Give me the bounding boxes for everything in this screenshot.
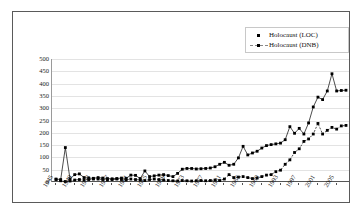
data-point-marker bbox=[265, 174, 268, 177]
data-point-marker bbox=[228, 164, 231, 167]
y-axis-tick-label: 100 bbox=[39, 154, 49, 161]
x-axis-tick bbox=[261, 183, 262, 185]
data-point-marker bbox=[331, 72, 334, 75]
data-point-marker bbox=[321, 98, 324, 101]
data-point-marker bbox=[317, 96, 320, 99]
data-point-marker bbox=[237, 156, 240, 159]
data-point-marker bbox=[307, 122, 310, 125]
data-series-layer bbox=[52, 59, 350, 182]
x-axis-tick bbox=[130, 183, 131, 185]
legend-label-loc: Holocaust (LOC) bbox=[269, 31, 318, 39]
x-axis-tick bbox=[336, 183, 337, 185]
data-point-marker bbox=[92, 178, 95, 181]
series-line-loc bbox=[56, 74, 346, 180]
data-point-marker bbox=[288, 125, 291, 128]
data-point-marker bbox=[181, 168, 184, 171]
data-point-marker bbox=[279, 142, 282, 145]
data-point-marker bbox=[298, 127, 301, 130]
data-point-marker bbox=[209, 167, 212, 170]
chart-figure: Holocaust (LOC) Holocaust (DNB) 05010015… bbox=[0, 0, 362, 215]
x-axis-tick bbox=[92, 183, 93, 185]
data-point-marker bbox=[172, 175, 175, 178]
legend-item-loc: Holocaust (LOC) bbox=[249, 30, 345, 40]
y-axis-tick-label: 300 bbox=[39, 105, 49, 112]
data-point-marker bbox=[340, 89, 343, 92]
data-point-marker bbox=[204, 179, 207, 182]
data-point-marker bbox=[307, 138, 310, 141]
y-axis-tick-label: 400 bbox=[39, 80, 49, 87]
y-axis-tick-label: 150 bbox=[39, 142, 49, 149]
y-axis-tick-label: 350 bbox=[39, 93, 49, 100]
data-point-marker bbox=[190, 167, 193, 170]
data-point-marker bbox=[204, 167, 207, 170]
data-point-marker bbox=[345, 89, 348, 92]
data-point-marker bbox=[284, 138, 287, 141]
data-point-marker bbox=[312, 133, 315, 136]
data-point-marker bbox=[129, 174, 132, 177]
data-point-marker bbox=[340, 125, 343, 128]
data-point-marker bbox=[134, 174, 137, 177]
x-axis-tick bbox=[186, 183, 187, 185]
x-axis-tick bbox=[298, 183, 299, 185]
x-axis-tick bbox=[242, 183, 243, 185]
x-axis-tick bbox=[74, 183, 75, 185]
data-point-marker bbox=[331, 126, 334, 129]
data-point-marker bbox=[148, 178, 151, 181]
data-point-marker bbox=[298, 147, 301, 150]
data-point-marker bbox=[335, 90, 338, 93]
x-axis-tick bbox=[205, 183, 206, 185]
legend-label-dnb: Holocaust (DNB) bbox=[269, 41, 319, 49]
x-axis-tick bbox=[167, 183, 168, 185]
data-point-marker bbox=[260, 147, 263, 150]
data-point-marker bbox=[251, 152, 254, 155]
data-point-marker bbox=[265, 144, 268, 147]
data-point-marker bbox=[312, 106, 315, 109]
legend-item-dnb: Holocaust (DNB) bbox=[249, 40, 345, 50]
y-axis-tick-label: 500 bbox=[39, 56, 49, 63]
data-point-marker bbox=[274, 142, 277, 145]
y-axis-tick-label: 200 bbox=[39, 130, 49, 137]
legend-marker-dnb-icon bbox=[249, 40, 269, 50]
data-point-marker bbox=[317, 122, 320, 125]
data-point-marker bbox=[321, 133, 324, 136]
data-point-marker bbox=[284, 163, 287, 166]
y-axis-tick-label: 450 bbox=[39, 68, 49, 75]
data-point-marker bbox=[246, 154, 249, 157]
data-point-marker bbox=[111, 178, 114, 181]
plot-area bbox=[51, 59, 349, 182]
data-point-marker bbox=[256, 150, 259, 153]
data-point-marker bbox=[73, 173, 76, 176]
data-point-marker bbox=[279, 169, 282, 172]
data-point-marker bbox=[260, 175, 263, 178]
data-point-marker bbox=[246, 176, 249, 179]
x-axis-labels: 1945194919531957196119651969197319771981… bbox=[51, 183, 349, 215]
y-axis-labels: 050100150200250300350400450500 bbox=[25, 59, 49, 182]
data-point-marker bbox=[223, 161, 226, 164]
data-point-marker bbox=[303, 133, 306, 136]
data-point-marker bbox=[303, 140, 306, 143]
data-point-marker bbox=[288, 158, 291, 161]
data-point-marker bbox=[232, 163, 235, 166]
data-point-marker bbox=[167, 179, 170, 182]
data-point-marker bbox=[143, 170, 146, 173]
x-axis-tick bbox=[317, 183, 318, 185]
data-point-marker bbox=[228, 173, 231, 176]
data-point-marker bbox=[335, 128, 338, 131]
x-axis-tick bbox=[223, 183, 224, 185]
data-point-marker bbox=[200, 167, 203, 170]
x-axis-tick bbox=[149, 183, 150, 185]
data-point-marker bbox=[326, 90, 329, 93]
figure-frame: Holocaust (LOC) Holocaust (DNB) 05010015… bbox=[12, 11, 350, 203]
data-point-marker bbox=[326, 129, 329, 132]
data-point-marker bbox=[55, 178, 58, 181]
data-point-marker bbox=[214, 165, 217, 168]
y-axis-tick-label: 50 bbox=[43, 166, 50, 173]
x-axis-tick bbox=[55, 183, 56, 185]
data-point-marker bbox=[129, 178, 132, 181]
chart-legend: Holocaust (LOC) Holocaust (DNB) bbox=[245, 27, 349, 53]
data-point-marker bbox=[186, 179, 189, 182]
data-point-marker bbox=[242, 175, 245, 178]
data-point-marker bbox=[64, 146, 67, 149]
data-point-marker bbox=[345, 124, 348, 127]
data-point-marker bbox=[270, 143, 273, 146]
